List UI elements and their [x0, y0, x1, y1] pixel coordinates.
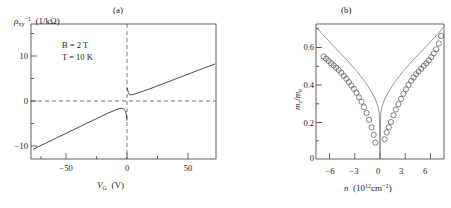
panel-a-curve-electron-branch — [127, 64, 215, 95]
panel-b-plot — [230, 0, 451, 208]
panel-b-theory-curve — [317, 28, 443, 160]
panel-a-plot — [0, 0, 230, 208]
panel-b: (b) mc/me 0.6 0.4 0.2 0 −6 −3 0 3 6 n (1… — [230, 0, 451, 208]
panel-b-data-points-left — [321, 54, 378, 145]
panel-a: (a) ρxy−1 (1/kΩ) 10 0 −10 −50 0 50 VG (V… — [0, 0, 230, 208]
figure-container: (a) ρxy−1 (1/kΩ) 10 0 −10 −50 0 50 VG (V… — [0, 0, 451, 208]
panel-a-curve-hole-branch — [33, 108, 127, 149]
